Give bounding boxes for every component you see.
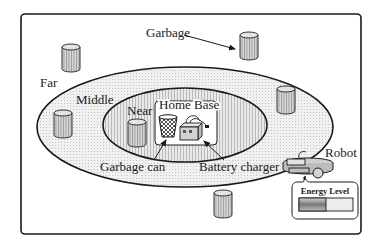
battery-charger-label: Battery charger	[199, 159, 280, 174]
garbage-can-label: Garbage can	[100, 159, 166, 174]
middle-label: Middle	[76, 92, 114, 107]
robot-environment-diagram: Far Middle Near Home Base Garbage Garbag…	[0, 0, 379, 246]
energy-level-label: Energy Level	[301, 186, 350, 196]
garbage-item-near	[128, 119, 146, 147]
garbage-item-far-bottom	[214, 190, 232, 218]
garbage-can-icon	[159, 115, 177, 137]
garbage-item-middle-right	[277, 86, 295, 114]
energy-level-callout	[292, 176, 358, 219]
garbage-label: Garbage	[146, 25, 190, 40]
garbage-item-far-topleft	[62, 44, 80, 72]
robot-label: Robot	[325, 145, 357, 160]
energy-level-bar	[299, 198, 353, 211]
garbage-item-far-topright	[240, 32, 258, 60]
garbage-item-middle-left	[54, 110, 72, 138]
far-label: Far	[40, 75, 58, 90]
near-label: Near	[127, 103, 153, 118]
home-base-label: Home Base	[159, 97, 220, 112]
